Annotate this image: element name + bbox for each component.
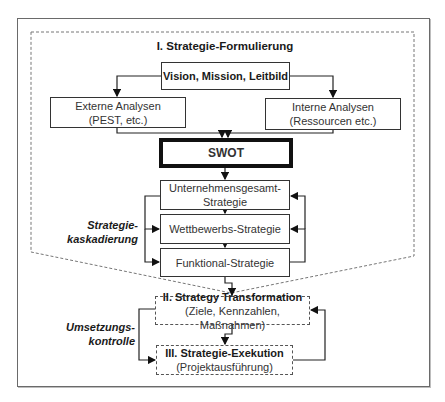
swot-box: SWOT [159,138,293,168]
internal-analysis-title: Interne Analysen [292,100,374,114]
execution-subtitle: (Projektausführung) [176,360,273,374]
transformation-title: II. Strategy Transformation [163,290,302,304]
vision-box: Vision, Mission, Leitbild [161,62,290,90]
competitive-strategy-box: Wettbewerbs-Strategie [160,214,290,244]
control-label-line2: kontrolle [60,334,135,348]
cascade-label: Strategie- kaskadierung [60,218,138,246]
control-label-line1: Umsetzungs- [60,320,135,334]
functional-strategy-box: Funktional-Strategie [160,248,290,277]
corporate-strategy-box: Unternehmensgesamt- Strategie [160,180,290,210]
external-analysis-box: Externe Analysen (PEST, etc.) [50,97,186,128]
execution-title: III. Strategie-Exekution [165,346,284,360]
vision-label: Vision, Mission, Leitbild [163,69,288,83]
cascade-label-line2: kaskadierung [60,232,138,246]
execution-box: III. Strategie-Exekution (Projektausführ… [156,345,293,375]
control-label: Umsetzungs- kontrolle [60,320,135,348]
corporate-strategy-line1: Unternehmensgesamt- [169,181,281,195]
phase1-title: I. Strategie-Formulierung [150,40,300,52]
internal-analysis-detail: (Ressourcen etc.) [290,114,377,128]
competitive-strategy-label: Wettbewerbs-Strategie [169,222,281,236]
swot-label: SWOT [208,146,244,160]
external-analysis-detail: (PEST, etc.) [89,113,148,127]
transformation-subtitle: (Ziele, Kennzahlen, Maßnahmen) [156,304,309,332]
external-analysis-title: Externe Analysen [75,99,161,113]
internal-analysis-box: Interne Analysen (Ressourcen etc.) [265,98,401,130]
corporate-strategy-line2: Strategie [203,195,247,209]
cascade-label-line1: Strategie- [60,218,138,232]
transformation-box: II. Strategy Transformation (Ziele, Kenn… [155,296,310,325]
functional-strategy-label: Funktional-Strategie [176,256,274,270]
